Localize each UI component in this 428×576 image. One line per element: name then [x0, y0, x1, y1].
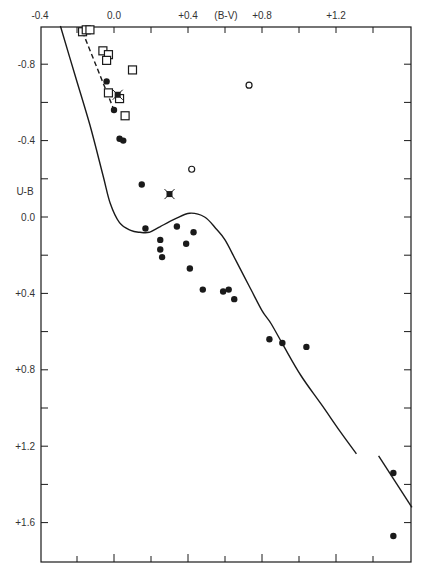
filled-circle-point: [390, 533, 396, 539]
x-axis-ticks: -0.40.0+0.4+0.8+1.2: [31, 10, 373, 562]
open-square-point: [103, 56, 111, 64]
x-tick-label: -0.4: [31, 10, 49, 21]
open-circle-point: [189, 166, 195, 172]
x-tick-label: +0.4: [178, 10, 198, 21]
filled-circle-point: [231, 296, 237, 302]
x-axis-label: (B-V): [214, 10, 237, 21]
open-square-point: [104, 89, 112, 97]
filled-circle-point: [111, 107, 117, 113]
y-tick-label: +1.2: [15, 441, 35, 452]
filled-circle-point: [279, 340, 285, 346]
x-tick-label: +1.2: [326, 10, 346, 21]
filled-circle-point: [120, 137, 126, 143]
y-tick-label: +0.4: [15, 288, 35, 299]
filled-circle-point: [187, 265, 193, 271]
filled-circle-point: [103, 78, 109, 84]
filled-circle-point: [183, 241, 189, 247]
y-tick-label: +0.8: [15, 364, 35, 375]
y-tick-label: -0.8: [18, 59, 36, 70]
filled-circle-point: [220, 288, 226, 294]
y-axis-ticks: -0.8-0.40.0+0.4+0.8+1.2+1.6: [15, 59, 411, 528]
x-tick-label: 0.0: [107, 10, 121, 21]
curves: [60, 26, 412, 507]
filled-circle-point: [139, 181, 145, 187]
filled-circle-point: [390, 470, 396, 476]
filled-circle-point: [303, 344, 309, 350]
filled-circle-point: [266, 336, 272, 342]
open-square-point: [129, 66, 137, 74]
filled-circle-point: [226, 286, 232, 292]
open-square-point: [121, 112, 129, 120]
data-points: [79, 26, 397, 539]
filled-circle-point: [200, 286, 206, 292]
plot-frame: [41, 27, 411, 562]
reddening-line: [83, 32, 115, 110]
filled-circle-point: [190, 229, 196, 235]
starred-square-point: [165, 189, 175, 199]
filled-circle-point: [142, 225, 148, 231]
filled-circle-point: [157, 246, 163, 252]
giant-branch-segment: [379, 456, 412, 508]
y-axis-label: U-B: [16, 186, 34, 197]
open-circle-point: [246, 82, 252, 88]
filled-circle-point: [174, 223, 180, 229]
y-tick-label: +1.6: [15, 517, 35, 528]
filled-circle-point: [159, 254, 165, 260]
y-tick-label: -0.4: [18, 135, 36, 146]
filled-circle-point: [157, 237, 163, 243]
open-square-point: [86, 26, 94, 34]
two-color-diagram: -0.40.0+0.4+0.8+1.2 -0.8-0.40.0+0.4+0.8+…: [0, 0, 428, 576]
x-tick-label: +0.8: [252, 10, 272, 21]
y-tick-label: 0.0: [21, 212, 35, 223]
